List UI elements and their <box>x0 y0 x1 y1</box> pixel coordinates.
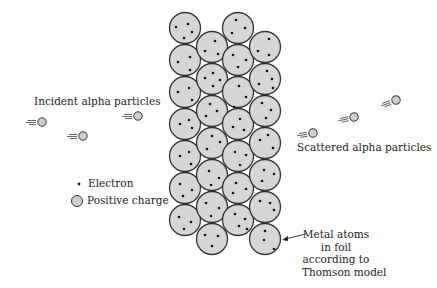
legend-electron-label: Electron <box>88 177 133 189</box>
metal-atoms-line-4: Thomson model <box>302 266 370 279</box>
alpha-particle-icon <box>26 118 46 126</box>
alpha-particle-icon <box>297 128 318 139</box>
alpha-particle-icon <box>122 112 142 120</box>
metal-atoms-line-3: according to <box>302 253 370 266</box>
alpha-particle-icon <box>67 132 87 140</box>
metal-atoms-line-2: in foil <box>302 241 370 254</box>
scattered-alpha-particles <box>297 95 402 140</box>
positive-charge-circle-icon <box>72 196 83 207</box>
alpha-particle-icon <box>337 112 359 124</box>
metal-foil <box>170 13 281 255</box>
atom-column-d <box>250 32 281 255</box>
electron-dot-icon <box>78 183 81 186</box>
scattered-label: Scattered alpha particles <box>297 141 431 153</box>
metal-atoms-line-1: Metal atoms <box>302 228 370 241</box>
metal-atoms-label: Metal atoms in foil according to Thomson… <box>302 228 370 278</box>
incident-label: Incident alpha particles <box>34 95 161 107</box>
incident-alpha-particles <box>26 112 142 140</box>
atom-column-a <box>170 13 201 236</box>
alpha-particle-icon <box>380 95 402 110</box>
legend-positive-charge-label: Positive charge <box>87 194 169 206</box>
